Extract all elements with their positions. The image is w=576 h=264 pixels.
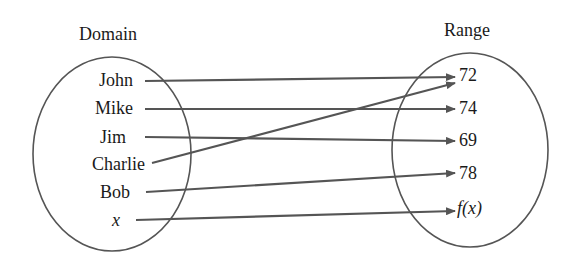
range-item-74: 74 xyxy=(459,98,477,118)
domain-item-jim: Jim xyxy=(100,127,126,147)
domain-item-x: x xyxy=(111,210,120,230)
arrow-x-to-fx xyxy=(136,211,455,220)
arrow-bob-to-78 xyxy=(146,173,455,192)
arrow-jim-to-69 xyxy=(145,137,455,141)
range-item-fx: f(x) xyxy=(457,198,482,219)
range-item-72: 72 xyxy=(459,65,477,85)
domain-item-john: John xyxy=(99,70,133,90)
range-item-69: 69 xyxy=(459,130,477,150)
mapping-diagram: Domain Range John Mike Jim Charlie Bob x… xyxy=(0,0,576,264)
range-item-78: 78 xyxy=(459,163,477,183)
domain-item-bob: Bob xyxy=(100,182,130,202)
domain-item-mike: Mike xyxy=(95,98,133,118)
arrow-john-to-72 xyxy=(145,77,455,81)
domain-item-charlie: Charlie xyxy=(92,154,145,174)
domain-title: Domain xyxy=(79,24,137,44)
range-title: Range xyxy=(444,20,490,40)
arrow-charlie-to-72 xyxy=(152,83,455,163)
